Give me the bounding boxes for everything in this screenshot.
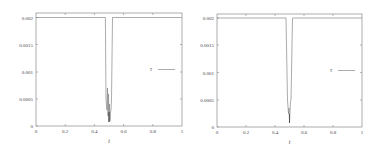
y-tick-label: 0.0015 [19,43,33,48]
x-tick-label: 1 [361,130,364,135]
x-tick-label: 0 [35,129,38,134]
y-tick-label: 0.001 [203,71,215,76]
x-tick-label: 0.2 [62,129,69,134]
chart-left: 0 0.0005 0.001 0.0015 0.002 0 0.2 0.4 0.… [0,0,190,147]
x-axis: 0 0.2 0.4 0.6 0.8 1 t [35,13,184,144]
legend-label: τ [330,67,333,73]
y-tick-label: 0.0005 [200,98,214,103]
y-tick-label: 0.001 [22,70,34,75]
chart-right-svg: 0 0.0005 0.001 0.0015 0.002 0 0.2 0.4 0.… [190,0,381,147]
x-axis: 0 0.2 0.4 0.6 0.8 1 t [216,14,364,145]
y-tick-label: 0.0005 [19,97,33,102]
y-tick-label: 0.002 [203,16,215,21]
x-tick-label: 0.8 [330,130,337,135]
y-axis: 0 0.0005 0.001 0.0015 0.002 [19,16,182,130]
chart-left-svg: 0 0.0005 0.001 0.0015 0.002 0 0.2 0.4 0.… [0,0,190,147]
legend: τ [330,67,355,73]
x-tick-label: 0.6 [301,130,308,135]
y-tick-label: 0.002 [22,16,34,21]
x-tick-label: 1 [181,129,184,134]
chart-right: 0 0.0005 0.001 0.0015 0.002 0 0.2 0.4 0.… [190,0,381,147]
legend: τ [150,66,175,72]
x-tick-label: 0.4 [91,129,98,134]
y-tick-label: 0.0015 [200,43,214,48]
legend-label: τ [150,66,153,72]
x-axis-label: t [108,138,110,144]
x-tick-label: 0.2 [243,130,250,135]
y-axis: 0 0.0005 0.001 0.0015 0.002 [200,16,362,130]
x-tick-label: 0 [216,130,219,135]
x-tick-label: 0.8 [150,129,157,134]
x-tick-label: 0.4 [272,130,279,135]
y-tick-label: 0 [31,124,34,129]
y-tick-label: 0 [212,125,215,130]
x-tick-label: 0.6 [120,129,127,134]
x-axis-label: t [289,139,291,145]
